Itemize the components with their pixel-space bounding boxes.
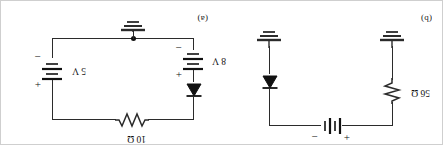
wire-left-bottom	[193, 96, 194, 120]
panel-label-a: (a)	[197, 14, 208, 24]
circuit-panel-a: (a) − + 8 V	[0, 0, 222, 146]
battery-5v-icon	[40, 58, 64, 82]
wire-top-rail-left	[134, 38, 194, 39]
wire-top-rail-right	[52, 38, 132, 39]
battery-8v-label: 8 V	[212, 56, 226, 66]
resistor-10ohm-icon	[115, 112, 149, 128]
circuit-panel-b: (b) 56 Ω	[222, 0, 444, 146]
battery-5v-minus: −	[35, 51, 41, 62]
wire-right-upper	[269, 46, 270, 74]
battery-8v-plus: +	[176, 69, 182, 80]
wire-bottom-right-seg	[269, 125, 321, 126]
battery-8v-icon	[181, 48, 205, 72]
resistor-56ohm-icon	[383, 78, 401, 104]
wire-right-lower	[269, 88, 270, 126]
wire-left-upper	[392, 46, 393, 80]
panel-label-b: (b)	[421, 14, 432, 24]
battery-100v-minus: −	[312, 131, 318, 142]
wire-bottom-left-seg	[342, 125, 393, 126]
wire-bottom-left-seg	[148, 119, 194, 120]
battery-100v-icon	[319, 114, 343, 136]
battery-100v-label: 100 V	[323, 144, 346, 146]
ground-icon	[119, 14, 147, 32]
wire-right-bottom	[52, 80, 53, 120]
resistor-10ohm-label: 10 Ω	[127, 134, 146, 144]
circuit-figure: (b) 56 Ω	[0, 0, 444, 146]
diode-icon	[185, 80, 203, 98]
wire-right-top-stub	[52, 38, 53, 58]
battery-100v-plus: +	[344, 132, 350, 143]
ground-icon	[378, 26, 406, 48]
ground-icon	[255, 26, 283, 48]
wire-bottom-right-seg	[52, 119, 116, 120]
battery-5v-label: 5 V	[72, 66, 86, 76]
battery-5v-plus: +	[35, 79, 41, 90]
diode-icon	[261, 72, 279, 90]
resistor-56ohm-label: 56 Ω	[411, 88, 430, 98]
wire-left-lower	[392, 102, 393, 126]
battery-8v-minus: −	[176, 42, 182, 53]
